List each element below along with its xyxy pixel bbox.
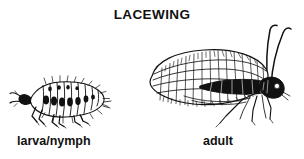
caption-adult: adult — [203, 134, 233, 148]
page-title: LACEWING — [0, 7, 304, 22]
caption-larva-nymph: larva/nymph — [17, 134, 91, 148]
larva-illustration — [10, 72, 115, 128]
lacewing-diagram: LACEWING — [0, 0, 304, 159]
adult-illustration — [140, 24, 304, 132]
